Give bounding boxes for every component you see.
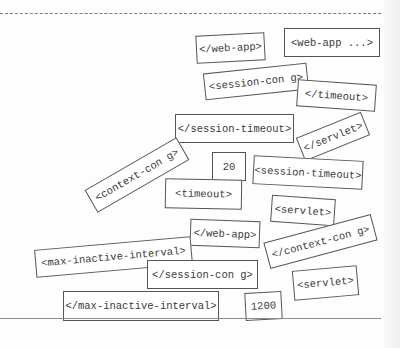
- magnet-value-1200[interactable]: 1200: [244, 291, 282, 321]
- page-edge-shadow: [384, 0, 400, 348]
- magnet-open-session-config[interactable]: <session-con g>: [203, 63, 309, 101]
- magnet-open-session-timeout[interactable]: <session-timeout>: [252, 155, 363, 190]
- top-dashed-divider: [0, 13, 381, 14]
- magnet-open-servlet-2[interactable]: <servlet>: [292, 265, 359, 301]
- magnet-open-timeout[interactable]: <timeout>: [165, 178, 243, 209]
- magnet-close-timeout[interactable]: </timeout>: [296, 79, 377, 111]
- magnet-close-web-app[interactable]: </web-app>: [195, 32, 265, 64]
- magnet-close-servlet[interactable]: </servlet>: [296, 112, 370, 161]
- magnet-close-max-inactive-interval[interactable]: </max-inactive-interval>: [63, 291, 219, 321]
- magnet-open-web-app[interactable]: <web-app ...>: [284, 28, 380, 57]
- bottom-divider: [0, 318, 381, 319]
- magnet-close-session-config[interactable]: </session-con g>: [147, 260, 258, 289]
- magnet-close-session-timeout[interactable]: </session-timeout>: [175, 114, 294, 143]
- magnet-open-servlet[interactable]: <servlet>: [270, 195, 336, 226]
- magnet-close-web-app-2[interactable]: </web-app>: [190, 219, 261, 248]
- magnet-value-20[interactable]: 20: [212, 152, 246, 181]
- magnets-exercise-page: </web-app> <web-app ...> <session-con g>…: [0, 0, 400, 348]
